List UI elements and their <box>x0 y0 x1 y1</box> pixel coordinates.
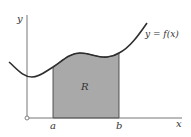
bound-a-label: a <box>50 120 56 131</box>
x-axis-label: x <box>176 118 182 129</box>
y-axis-label: y <box>16 13 23 24</box>
area-under-curve-diagram: y x a b R y = f(x) <box>0 0 191 137</box>
origin-marker <box>25 116 29 120</box>
region-label: R <box>80 81 89 92</box>
bound-b-label: b <box>116 120 122 131</box>
curve-label: y = f(x) <box>144 29 179 39</box>
